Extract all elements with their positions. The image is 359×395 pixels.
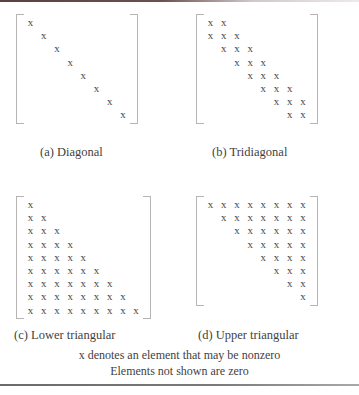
matrix-cell-zero: [103, 56, 116, 69]
matrix-cell-zero: [50, 29, 63, 42]
matrix-cell-zero: [116, 251, 129, 264]
matrix-cell-zero: [116, 224, 129, 237]
matrix-row: xxx: [204, 29, 310, 42]
matrix-cell-zero: [204, 42, 217, 55]
matrix-grid: x x x x x x x x: [16, 14, 138, 124]
matrix-cell-zero: [244, 290, 257, 303]
legend-note-zero: Elements not shown are zero: [0, 364, 359, 379]
matrix-cell-zero: [116, 29, 129, 42]
matrix-cell-zero: [24, 42, 37, 55]
matrix-cell-nonzero: x: [24, 264, 37, 277]
matrix-cell-nonzero: x: [50, 290, 63, 303]
matrix-cell-nonzero: x: [50, 42, 63, 55]
matrix-cell-nonzero: x: [24, 290, 37, 303]
matrix-cell-nonzero: x: [50, 264, 63, 277]
matrix-cell-zero: [116, 16, 129, 29]
matrix-cell-zero: [24, 69, 37, 82]
matrix-cell-zero: [130, 251, 143, 264]
matrix-cell-zero: [257, 108, 270, 121]
matrix-cell-zero: [77, 224, 90, 237]
matrix-cell-nonzero: x: [64, 238, 77, 251]
matrix-cell-zero: [77, 238, 90, 251]
matrix-cell-nonzero: x: [37, 211, 50, 224]
matrix-cell-nonzero: x: [270, 251, 283, 264]
matrix-cell-zero: [103, 211, 116, 224]
matrix-cell-zero: [103, 251, 116, 264]
matrix-cell-zero: [90, 69, 103, 82]
caption-diagonal: (a) Diagonal: [40, 145, 103, 160]
matrix-cell-zero: [90, 56, 103, 69]
matrix-cell-zero: [103, 16, 116, 29]
matrix-cell-nonzero: x: [296, 277, 309, 290]
matrix-row: x: [24, 198, 143, 211]
matrix-cell-zero: [217, 251, 230, 264]
matrix-cell-nonzero: x: [204, 16, 217, 29]
matrix-cell-nonzero: x: [37, 304, 50, 317]
matrix-cell-zero: [90, 211, 103, 224]
matrix-cell-zero: [230, 277, 243, 290]
matrix-row: xxxxx: [204, 238, 310, 251]
matrix-cell-zero: [204, 108, 217, 121]
matrix-cell-zero: [283, 69, 296, 82]
matrix-row: xxx: [204, 42, 310, 55]
matrix-row: xxx: [24, 224, 143, 237]
matrix-cell-nonzero: x: [217, 42, 230, 55]
matrix-cell-zero: [270, 42, 283, 55]
matrix-cell-zero: [90, 42, 103, 55]
matrix-row: xxxxxxx: [24, 277, 143, 290]
matrix-cell-nonzero: x: [283, 251, 296, 264]
matrix-row: x: [24, 42, 130, 55]
matrix-cell-nonzero: x: [24, 251, 37, 264]
matrix-cell-nonzero: x: [50, 224, 63, 237]
matrix-cell-nonzero: x: [283, 224, 296, 237]
matrix-panel-tridiagonal: xx xxx xxx xxx xxx xxx xxx xx: [196, 14, 318, 124]
matrix-cell-zero: [64, 16, 77, 29]
matrix-panel-lower-triangular: x xx xxx xxxx xxxxx xxxxxx xxxxxxx xxxxx…: [16, 196, 151, 320]
matrix-row: x: [24, 82, 130, 95]
matrix-cell-zero: [204, 238, 217, 251]
matrix-cell-nonzero: x: [244, 69, 257, 82]
matrix-cell-zero: [90, 251, 103, 264]
legend-note-nonzero: x denotes an element that may be nonzero: [0, 348, 359, 363]
matrix-cell-nonzero: x: [257, 69, 270, 82]
matrix-row: xx: [204, 277, 310, 290]
matrix-cell-nonzero: x: [257, 56, 270, 69]
matrix-cell-zero: [204, 82, 217, 95]
matrix-cell-nonzero: x: [24, 238, 37, 251]
matrix-cell-nonzero: x: [257, 251, 270, 264]
matrix-cell-zero: [116, 264, 129, 277]
matrix-cell-nonzero: x: [77, 304, 90, 317]
matrix-cell-zero: [116, 198, 129, 211]
matrix-cell-zero: [244, 29, 257, 42]
matrix-cell-zero: [37, 69, 50, 82]
matrix-cell-nonzero: x: [296, 108, 309, 121]
matrix-cell-zero: [90, 108, 103, 121]
matrix-bracket-left: [16, 196, 24, 319]
matrix-cell-zero: [64, 69, 77, 82]
matrix-bracket-left: [16, 14, 24, 124]
matrix-cell-zero: [257, 42, 270, 55]
matrix-cell-nonzero: x: [283, 264, 296, 277]
matrix-cell-nonzero: x: [50, 277, 63, 290]
matrix-cell-nonzero: x: [50, 304, 63, 317]
matrix-cell-nonzero: x: [270, 82, 283, 95]
matrix-cell-zero: [130, 211, 143, 224]
matrix-cell-nonzero: x: [296, 95, 309, 108]
matrix-cell-nonzero: x: [90, 264, 103, 277]
matrix-cell-zero: [296, 42, 309, 55]
matrix-cell-nonzero: x: [283, 277, 296, 290]
matrix-cell-nonzero: x: [257, 198, 270, 211]
matrix-cell-zero: [130, 238, 143, 251]
matrix-cell-zero: [257, 29, 270, 42]
matrix-cell-nonzero: x: [230, 29, 243, 42]
caption-lower-triangular: (c) Lower triangular: [14, 328, 115, 343]
matrix-cell-zero: [217, 264, 230, 277]
matrix-cell-zero: [270, 56, 283, 69]
matrix-cell-nonzero: x: [204, 198, 217, 211]
matrix-cell-zero: [244, 108, 257, 121]
matrix-row: xx: [204, 108, 310, 121]
caption-tridiagonal: (b) Tridiagonal: [212, 145, 287, 160]
matrix-cell-zero: [116, 211, 129, 224]
matrix-cell-nonzero: x: [270, 211, 283, 224]
matrix-row: xxx: [204, 95, 310, 108]
